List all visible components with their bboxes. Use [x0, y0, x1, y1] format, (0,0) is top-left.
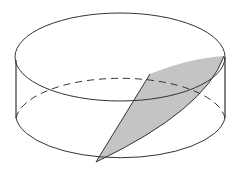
shaded-wedge [96, 56, 224, 162]
cylinder-wedge-diagram [0, 0, 236, 176]
